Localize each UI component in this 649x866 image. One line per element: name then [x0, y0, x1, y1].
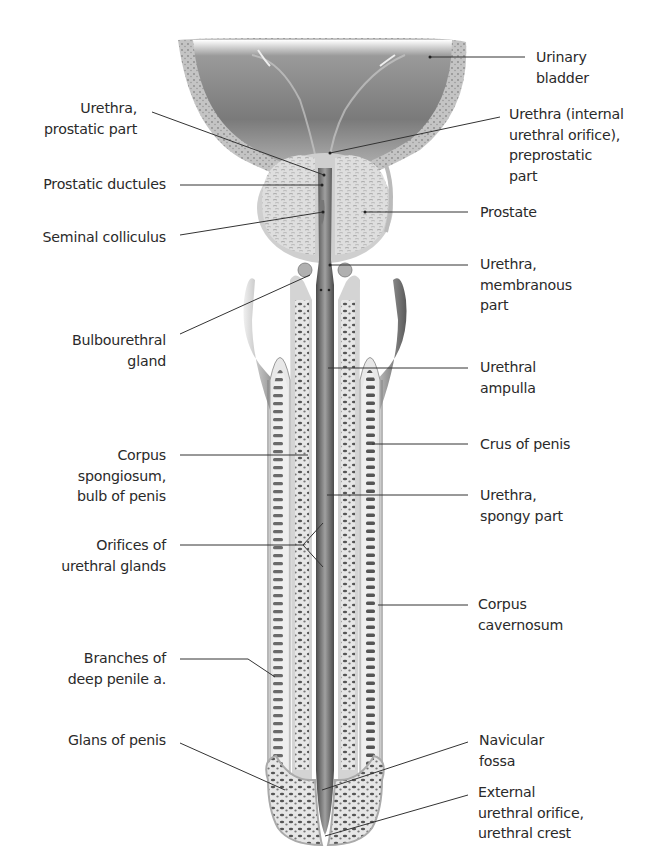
urethra-shape [316, 168, 334, 835]
label-urinary-bladder: Urinary bladder [536, 47, 589, 88]
label-orifices-urethral-glands: Orifices of urethral glands [61, 535, 166, 576]
label-urethra-internal-orifice: Urethra (internal urethral orifice), pre… [509, 104, 624, 186]
label-urethral-ampulla: Urethral ampulla [480, 357, 536, 398]
label-glans-of-penis: Glans of penis [68, 730, 166, 751]
label-bulbourethral-gland: Bulbourethral gland [72, 330, 166, 371]
label-corpus-spongiosum: Corpus spongiosum, bulb of penis [77, 445, 166, 507]
label-navicular-fossa: Navicular fossa [479, 730, 544, 771]
label-corpus-cavernosum: Corpus cavernosum [478, 594, 563, 635]
label-urethra-spongy-part: Urethra, spongy part [480, 485, 563, 526]
label-crus-of-penis: Crus of penis [480, 434, 570, 455]
label-external-urethral-orifice: External urethral orifice, urethral cres… [478, 782, 584, 844]
label-branches-deep-penile-a: Branches of deep penile a. [68, 648, 166, 689]
label-urethra-membranous-part: Urethra, membranous part [480, 254, 572, 316]
label-prostatic-ductules: Prostatic ductules [43, 174, 166, 195]
label-urethra-prostatic-part: Urethra, prostatic part [44, 98, 137, 139]
label-prostate: Prostate [480, 202, 537, 223]
label-seminal-colliculus: Seminal colliculus [43, 227, 166, 248]
